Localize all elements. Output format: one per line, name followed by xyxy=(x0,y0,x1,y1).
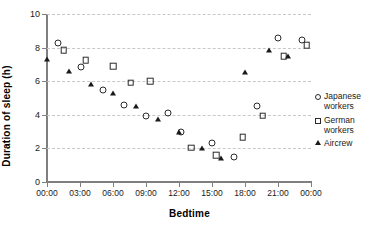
x-axis-title: Bedtime xyxy=(0,208,379,219)
x-tick-label-6: 18:00 xyxy=(234,189,255,198)
x-tick-1 xyxy=(80,182,81,187)
legend-label-line2: workers xyxy=(324,125,379,135)
x-tick-3 xyxy=(146,182,147,187)
x-tick-0 xyxy=(47,182,48,187)
data-point-triangle xyxy=(266,48,272,53)
y-tick-label-0: 0 xyxy=(35,178,40,187)
data-point-triangle xyxy=(285,54,291,59)
legend-item-0: Japaneseworkers xyxy=(315,91,379,111)
data-point-square xyxy=(147,78,154,85)
x-tick-label-2: 06:00 xyxy=(102,189,123,198)
x-tick-label-8: 00:00 xyxy=(300,189,321,198)
gridline-y-6 xyxy=(47,81,311,82)
data-point-triangle xyxy=(66,69,72,74)
data-point-circle xyxy=(231,153,238,160)
data-point-square xyxy=(259,112,266,119)
data-point-square xyxy=(303,42,310,49)
y-tick-label-10: 10 xyxy=(30,10,40,19)
data-point-triangle xyxy=(176,129,182,134)
data-point-circle xyxy=(165,110,172,117)
legend-label-line2: workers xyxy=(324,101,379,111)
data-point-triangle xyxy=(199,146,205,151)
data-point-triangle xyxy=(155,117,161,122)
y-tick-8 xyxy=(42,48,47,49)
y-tick-label-6: 6 xyxy=(35,77,40,86)
plot-area: 0246810 00:0003:0006:0009:0012:0015:0018… xyxy=(47,14,311,182)
data-point-circle xyxy=(209,140,216,147)
data-point-square xyxy=(82,57,89,64)
y-axis-title: Duration of sleep (h) xyxy=(0,0,13,232)
legend-item-2: Aircrew xyxy=(315,138,379,148)
x-tick-label-5: 15:00 xyxy=(201,189,222,198)
y-tick-10 xyxy=(42,14,47,15)
legend-item-1: Germanworkers xyxy=(315,115,379,135)
legend-label: Aircrew xyxy=(324,138,379,148)
x-tick-5 xyxy=(212,182,213,187)
y-tick-4 xyxy=(42,115,47,116)
data-point-square xyxy=(127,80,134,87)
data-point-triangle xyxy=(218,155,224,160)
data-point-circle xyxy=(254,103,261,110)
x-tick-label-4: 12:00 xyxy=(168,189,189,198)
x-tick-4 xyxy=(179,182,180,187)
data-point-triangle xyxy=(110,90,116,95)
y-tick-2 xyxy=(42,148,47,149)
x-tick-6 xyxy=(245,182,246,187)
data-point-square xyxy=(188,144,195,151)
chart-figure: 0246810 00:0003:0006:0009:0012:0015:0018… xyxy=(0,0,379,232)
y-tick-label-8: 8 xyxy=(35,43,40,52)
y-tick-label-2: 2 xyxy=(35,144,40,153)
legend-label: Japanese xyxy=(324,91,379,101)
data-point-square xyxy=(60,47,67,54)
data-point-circle xyxy=(143,113,150,120)
legend-square-icon xyxy=(315,118,321,124)
x-tick-label-3: 09:00 xyxy=(135,189,156,198)
legend-triangle-icon xyxy=(315,140,321,145)
data-point-square xyxy=(240,134,247,141)
legend-circle-icon xyxy=(315,94,321,100)
x-tick-7 xyxy=(278,182,279,187)
x-tick-label-1: 03:00 xyxy=(69,189,90,198)
data-point-circle xyxy=(121,101,128,108)
data-point-triangle xyxy=(44,56,50,61)
data-point-circle xyxy=(275,34,282,41)
data-point-square xyxy=(110,63,117,70)
data-point-triangle xyxy=(133,104,139,109)
data-point-circle xyxy=(100,86,107,93)
data-point-circle xyxy=(78,63,85,70)
data-point-circle xyxy=(55,39,62,46)
x-tick-2 xyxy=(113,182,114,187)
gridline-y-10 xyxy=(47,14,311,15)
gridline-y-2 xyxy=(47,148,311,149)
chart-legend: JapaneseworkersGermanworkersAircrew xyxy=(315,91,379,152)
data-point-triangle xyxy=(88,81,94,86)
x-tick-label-0: 00:00 xyxy=(36,189,57,198)
legend-label: German xyxy=(324,115,379,125)
data-point-triangle xyxy=(242,69,248,74)
x-tick-8 xyxy=(311,182,312,187)
y-tick-label-4: 4 xyxy=(35,110,40,119)
gridline-y-4 xyxy=(47,115,311,116)
y-tick-6 xyxy=(42,81,47,82)
x-tick-label-7: 21:00 xyxy=(267,189,288,198)
